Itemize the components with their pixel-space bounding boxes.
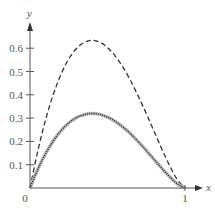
- lower-solid-gray-curve: [30, 113, 185, 188]
- chart-plot: x y 0.10.20.30.40.50.6 01: [0, 0, 215, 213]
- curves-layer: [30, 40, 185, 188]
- y-tick-label: 0.3: [9, 112, 23, 124]
- x-tick-label: 1: [182, 192, 188, 204]
- axes-layer: x y: [26, 7, 211, 193]
- lower-dotted-curve: [30, 113, 185, 188]
- y-axis-arrow-icon: [27, 22, 33, 31]
- x-axis-arrow-icon: [195, 185, 203, 191]
- x-tick-label: 0: [22, 192, 28, 204]
- y-tick-label: 0.1: [9, 159, 23, 171]
- y-tick-label: 0.2: [9, 135, 23, 147]
- y-axis-label: y: [26, 7, 32, 19]
- x-axis-label: x: [205, 181, 211, 193]
- y-tick-label: 0.6: [9, 42, 23, 54]
- y-tick-label: 0.4: [9, 89, 23, 101]
- y-tick-label: 0.5: [9, 66, 23, 78]
